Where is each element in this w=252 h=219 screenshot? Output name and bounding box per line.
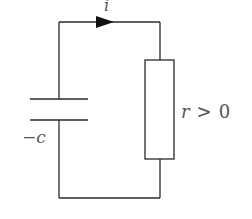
resistor-label: r>0 — [181, 101, 230, 122]
resistor — [145, 60, 174, 159]
capacitor — [30, 99, 88, 120]
resistor-label-val: 0 — [219, 101, 230, 122]
capacitor-label: −c — [22, 127, 46, 147]
current-label: i — [104, 0, 109, 15]
resistor-label-var: r — [181, 101, 191, 122]
circuit-diagram: i −c r>0 — [0, 0, 252, 219]
current-arrow-icon — [96, 16, 114, 28]
resistor-label-op: > — [197, 101, 212, 122]
